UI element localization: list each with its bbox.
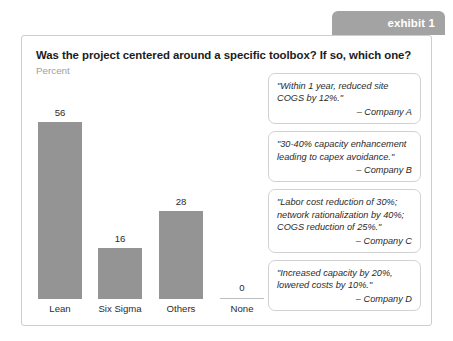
exhibit-card: Was the project centered around a specif… [21,35,432,326]
exhibit-page: exhibit 1 Was the project centered aroun… [0,0,453,341]
quote-text: "Increased capacity by 20%, lowered cost… [277,267,412,292]
bar-category-label: Others [159,303,203,314]
bar-group: 16 Six Sigma [98,81,142,299]
bar-rect [98,248,142,299]
quote-text: "Labor cost reduction of 30%; network ra… [277,196,412,233]
bar-rect [159,211,203,299]
quote-attribution: – Company C [277,235,412,247]
quote-list: "Within 1 year, reduced site COGS by 12%… [268,73,421,318]
quote-card: "Increased capacity by 20%, lowered cost… [268,260,421,311]
bar-value-label: 28 [159,196,203,207]
bar-rect [38,122,82,299]
bar-value-label: 0 [220,282,264,293]
bar-category-label: None [220,303,264,314]
quote-card: "Within 1 year, reduced site COGS by 12%… [268,73,421,124]
page-subtitle: Percent [36,65,70,76]
bar-value-label: 16 [98,233,142,244]
bar-group: 28 Others [159,81,203,299]
exhibit-tab: exhibit 1 [332,11,445,35]
quote-text: "Within 1 year, reduced site COGS by 12%… [277,80,412,105]
bar-plot-area: 56 Lean 16 Six Sigma 28 Others 0 [28,81,268,299]
bar-group: 56 Lean [38,81,82,299]
quote-attribution: – Company A [277,106,412,118]
bar-category-label: Lean [38,303,82,314]
bar-group: 0 None [220,81,264,299]
bar-chart: 56 Lean 16 Six Sigma 28 Others 0 [28,81,268,321]
quote-text: "30-40% capacity enhancement leading to … [277,138,412,163]
quote-card: "Labor cost reduction of 30%; network ra… [268,189,421,253]
quote-attribution: – Company D [277,293,412,305]
quote-attribution: – Company B [277,164,412,176]
page-title: Was the project centered around a specif… [36,49,411,61]
quote-card: "30-40% capacity enhancement leading to … [268,131,421,182]
bar-rect [220,298,264,299]
bar-value-label: 56 [38,107,82,118]
bar-category-label: Six Sigma [90,303,150,314]
